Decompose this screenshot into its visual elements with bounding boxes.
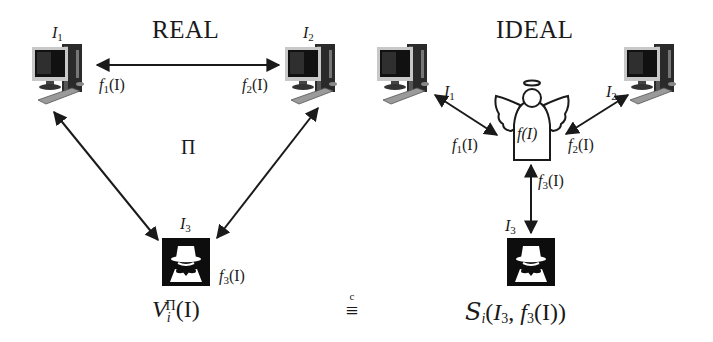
simulator-label: Si(I3, f3(I)) <box>465 298 566 327</box>
real-input-p1-label: I1 <box>52 24 63 43</box>
real-output-p2-label: f2(I) <box>242 76 268 95</box>
ideal-arrow-p2-angel <box>566 95 628 134</box>
real-view-label: ViΠ(I) <box>152 296 200 326</box>
ideal-adversary-spy-icon <box>507 238 555 286</box>
ideal-output-p2-label: f2(I) <box>568 136 594 155</box>
real-input-p2-label: I2 <box>303 24 314 43</box>
ideal-input-p1-label: I1 <box>444 83 455 102</box>
real-output-p1-label: f1(I) <box>99 76 125 95</box>
trusted-party-function-label: f(I) <box>517 125 537 143</box>
trusted-party-angel-icon <box>495 81 568 161</box>
protocol-label: Π <box>181 136 195 159</box>
ideal-input-p2-label: I2 <box>606 83 617 102</box>
real-arrow-p2-p3 <box>217 108 318 238</box>
ideal-input-p3-label: I3 <box>505 217 516 236</box>
computational-indistinguishability-symbol: ≡ <box>342 298 362 324</box>
real-output-p3-label: f3(I) <box>219 267 245 286</box>
real-title: REAL <box>152 16 219 44</box>
ideal-title: IDEAL <box>496 16 573 44</box>
real-adversary-spy-icon <box>162 238 210 286</box>
ideal-computer-p1-icon <box>377 44 429 104</box>
real-arrow-p1-p3 <box>54 112 158 240</box>
ideal-output-p1-label: f1(I) <box>452 136 478 155</box>
real-input-p3-label: I3 <box>180 215 191 234</box>
real-computer-p2-icon <box>285 44 337 104</box>
ideal-computer-p2-icon <box>624 44 676 104</box>
real-computer-p1-icon <box>32 44 84 104</box>
ideal-output-p3-label: f3(I) <box>538 172 564 191</box>
